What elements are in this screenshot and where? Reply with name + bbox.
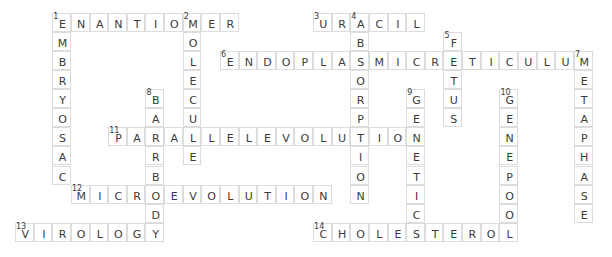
grid-cell[interactable]: E bbox=[183, 146, 202, 165]
grid-cell[interactable]: U bbox=[183, 108, 202, 127]
grid-cell[interactable]: E bbox=[406, 108, 425, 127]
grid-cell[interactable]: G bbox=[127, 223, 146, 242]
grid-cell[interactable]: 6E bbox=[220, 51, 239, 70]
grid-cell[interactable]: Y bbox=[52, 89, 71, 108]
grid-cell[interactable]: D bbox=[145, 204, 164, 223]
grid-cell[interactable]: L bbox=[90, 223, 109, 242]
grid-cell[interactable]: A bbox=[574, 166, 593, 185]
grid-cell[interactable]: P bbox=[574, 127, 593, 146]
grid-cell[interactable]: T bbox=[574, 89, 593, 108]
grid-cell[interactable]: S bbox=[443, 108, 462, 127]
grid-cell[interactable]: A bbox=[52, 146, 71, 165]
grid-cell[interactable]: O bbox=[350, 223, 369, 242]
grid-cell[interactable]: R bbox=[425, 51, 444, 70]
grid-cell[interactable]: 5F bbox=[443, 32, 462, 51]
grid-cell[interactable]: A bbox=[574, 108, 593, 127]
grid-cell[interactable]: I bbox=[350, 146, 369, 165]
grid-cell[interactable]: E bbox=[443, 223, 462, 242]
grid-cell[interactable]: R bbox=[127, 185, 146, 204]
grid-cell[interactable]: T bbox=[425, 223, 444, 242]
grid-cell[interactable]: R bbox=[145, 127, 164, 146]
grid-cell[interactable]: L bbox=[201, 127, 220, 146]
grid-cell[interactable]: E bbox=[406, 146, 425, 165]
grid-cell[interactable]: C bbox=[406, 51, 425, 70]
grid-cell[interactable]: 8B bbox=[145, 89, 164, 108]
grid-cell[interactable]: S bbox=[574, 185, 593, 204]
grid-cell[interactable]: P bbox=[350, 108, 369, 127]
grid-cell[interactable]: N bbox=[239, 51, 258, 70]
grid-cell[interactable]: S bbox=[52, 127, 71, 146]
grid-cell[interactable]: T bbox=[462, 51, 481, 70]
grid-cell[interactable]: E bbox=[164, 185, 183, 204]
grid-cell[interactable]: S bbox=[350, 51, 369, 70]
grid-cell[interactable]: C bbox=[108, 185, 127, 204]
grid-cell[interactable]: N bbox=[499, 127, 518, 146]
grid-cell[interactable]: I bbox=[145, 13, 164, 32]
grid-cell[interactable]: D bbox=[257, 51, 276, 70]
grid-cell[interactable]: U bbox=[555, 51, 574, 70]
grid-cell[interactable]: H bbox=[574, 146, 593, 165]
grid-cell[interactable]: L bbox=[239, 127, 258, 146]
grid-cell[interactable]: N bbox=[108, 13, 127, 32]
grid-cell[interactable]: E bbox=[201, 13, 220, 32]
grid-cell[interactable]: P bbox=[499, 166, 518, 185]
grid-cell[interactable]: O bbox=[388, 127, 407, 146]
grid-cell[interactable]: M bbox=[52, 32, 71, 51]
grid-cell[interactable]: 1E bbox=[52, 13, 71, 32]
grid-cell[interactable]: 13V bbox=[15, 223, 34, 242]
grid-cell[interactable]: 9G bbox=[406, 89, 425, 108]
grid-cell[interactable]: O bbox=[164, 13, 183, 32]
grid-cell[interactable]: B bbox=[52, 51, 71, 70]
grid-cell[interactable]: B bbox=[350, 32, 369, 51]
grid-cell[interactable]: L bbox=[406, 13, 425, 32]
grid-cell[interactable]: E bbox=[499, 146, 518, 165]
grid-cell[interactable]: I bbox=[90, 185, 109, 204]
grid-cell[interactable]: R bbox=[462, 223, 481, 242]
grid-cell[interactable]: 12M bbox=[71, 185, 90, 204]
grid-cell[interactable]: I bbox=[481, 51, 500, 70]
grid-cell[interactable]: C bbox=[406, 204, 425, 223]
grid-cell[interactable]: L bbox=[183, 51, 202, 70]
grid-cell[interactable]: O bbox=[276, 51, 295, 70]
grid-cell[interactable]: R bbox=[52, 223, 71, 242]
grid-cell[interactable]: I bbox=[34, 223, 53, 242]
grid-cell[interactable]: T bbox=[406, 166, 425, 185]
grid-cell[interactable]: O bbox=[71, 223, 90, 242]
grid-cell[interactable]: I bbox=[388, 51, 407, 70]
grid-cell[interactable]: O bbox=[108, 223, 127, 242]
grid-cell[interactable]: T bbox=[350, 127, 369, 146]
grid-cell[interactable]: O bbox=[499, 204, 518, 223]
grid-cell[interactable]: I bbox=[388, 13, 407, 32]
grid-cell[interactable]: N bbox=[406, 127, 425, 146]
grid-cell[interactable]: U bbox=[518, 51, 537, 70]
grid-cell[interactable]: I bbox=[369, 127, 388, 146]
grid-cell[interactable]: 3U bbox=[313, 13, 332, 32]
grid-cell[interactable]: N bbox=[350, 185, 369, 204]
grid-cell[interactable]: A bbox=[332, 51, 351, 70]
grid-cell[interactable]: L bbox=[220, 185, 239, 204]
grid-cell[interactable]: U bbox=[332, 127, 351, 146]
grid-cell[interactable]: R bbox=[145, 146, 164, 165]
grid-cell[interactable]: E bbox=[574, 70, 593, 89]
grid-cell[interactable]: 11P bbox=[108, 127, 127, 146]
grid-cell[interactable]: L bbox=[537, 51, 556, 70]
grid-cell[interactable]: C bbox=[369, 13, 388, 32]
grid-cell[interactable]: E bbox=[443, 51, 462, 70]
grid-cell[interactable]: E bbox=[183, 70, 202, 89]
grid-cell[interactable]: A bbox=[90, 13, 109, 32]
grid-cell[interactable]: O bbox=[350, 70, 369, 89]
grid-cell[interactable]: L bbox=[369, 223, 388, 242]
grid-cell[interactable]: E bbox=[499, 108, 518, 127]
grid-cell[interactable]: O bbox=[52, 108, 71, 127]
grid-cell[interactable]: O bbox=[145, 185, 164, 204]
grid-cell[interactable]: 14C bbox=[313, 223, 332, 242]
grid-cell[interactable]: A bbox=[164, 127, 183, 146]
grid-cell[interactable]: L bbox=[313, 51, 332, 70]
grid-cell[interactable]: U bbox=[239, 185, 258, 204]
grid-cell[interactable]: O bbox=[183, 32, 202, 51]
grid-cell[interactable]: A bbox=[145, 108, 164, 127]
grid-cell[interactable]: L bbox=[499, 223, 518, 242]
grid-cell[interactable]: Y bbox=[145, 223, 164, 242]
grid-cell[interactable]: B bbox=[145, 166, 164, 185]
grid-cell[interactable]: O bbox=[350, 166, 369, 185]
